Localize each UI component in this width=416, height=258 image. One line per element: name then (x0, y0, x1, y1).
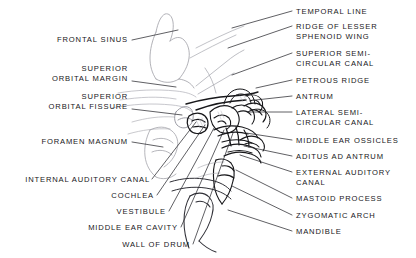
label-external-auditory-canal: EXTERNAL AUDITORYCANAL (296, 168, 391, 187)
label-superior-orbital-fissure: SUPERIORORBITAL FISSURE (49, 92, 128, 111)
label-aditus-ad-antrum: ADITUS AD ANTRUM (296, 152, 384, 162)
label-line: SUPERIOR (52, 64, 128, 74)
label-antrum: ANTRUM (296, 92, 334, 102)
label-superior-semicircular-canal: SUPERIOR SEMI-CIRCULAR CANAL (296, 49, 374, 68)
leader-line-wall-of-drum (193, 133, 233, 244)
leader-line-external-auditory-canal (240, 155, 292, 172)
label-middle-ear-ossicles: MIDDLE EAR OSSICLES (296, 136, 399, 146)
label-line: SPHENOID WING (296, 32, 378, 42)
label-line: MANDIBLE (296, 227, 342, 237)
label-line: INTERNAL AUDITORY CANAL (25, 175, 150, 185)
label-line: TEMPORAL LINE (296, 7, 368, 17)
diagram-page: FRONTAL SINUSSUPERIORORBITAL MARGINSUPER… (0, 0, 416, 258)
leader-line-superior-orbital-fissure (132, 109, 182, 115)
label-wall-of-drum: WALL OF DRUM (122, 240, 190, 250)
label-petrous-ridge: PETROUS RIDGE (296, 76, 370, 86)
label-line: LATERAL SEMI- (296, 108, 374, 118)
occipital-contours (145, 127, 178, 179)
label-foramen-magnum: FORAMEN MAGNUM (41, 137, 128, 147)
leader-line-superior-orbital-margin (132, 81, 176, 87)
leader-line-vestibule (169, 128, 214, 211)
label-line: CANAL (296, 178, 391, 188)
label-temporal-line: TEMPORAL LINE (296, 7, 368, 17)
label-mandible: MANDIBLE (296, 227, 342, 237)
label-line: FORAMEN MAGNUM (41, 137, 128, 147)
label-line: RIDGE OF LESSER (296, 22, 378, 32)
label-line: PETROUS RIDGE (296, 76, 370, 86)
label-line: ZYGOMATIC ARCH (296, 211, 376, 221)
label-line: CIRCULAR CANAL (296, 59, 374, 69)
leader-line-temporal-line (232, 11, 292, 28)
label-middle-ear-cavity: MIDDLE EAR CAVITY (88, 223, 178, 233)
label-line: FRONTAL SINUS (57, 35, 128, 45)
frontal-bone-outline (150, 14, 194, 88)
label-line: SUPERIOR (49, 92, 128, 102)
leader-line-petrous-ridge (256, 80, 292, 88)
label-ridge-of-lesser-sphenoid-wing: RIDGE OF LESSERSPHENOID WING (296, 22, 378, 41)
leader-line-ridge-of-lesser-sphenoid-wing (228, 26, 292, 48)
leader-line-superior-semicircular-canal (232, 53, 292, 75)
label-line: WALL OF DRUM (122, 240, 190, 250)
leader-line-antrum (256, 96, 292, 100)
label-frontal-sinus: FRONTAL SINUS (57, 35, 128, 45)
label-line: ANTRUM (296, 92, 334, 102)
label-cochlea: COCHLEA (111, 191, 154, 201)
label-line: ADITUS AD ANTRUM (296, 152, 384, 162)
leader-line-mastoid-process (236, 170, 292, 198)
label-lateral-semicircular-canal: LATERAL SEMI-CIRCULAR CANAL (296, 108, 374, 127)
label-line: MASTOID PROCESS (296, 194, 382, 204)
label-line: CIRCULAR CANAL (296, 118, 374, 128)
label-internal-auditory-canal: INTERNAL AUDITORY CANAL (25, 175, 150, 185)
label-mastoid-process: MASTOID PROCESS (296, 194, 382, 204)
leader-line-foramen-magnum (132, 142, 163, 147)
label-line: ORBITAL FISSURE (49, 102, 128, 112)
temporal-line-contour (190, 26, 244, 58)
leader-line-zygomatic-arch (232, 186, 292, 215)
lesser-sphenoid-wing (196, 50, 244, 94)
label-superior-orbital-margin: SUPERIORORBITAL MARGIN (52, 64, 128, 83)
zygomatic-arch-shape (170, 178, 231, 199)
label-vestibule: VESTIBULE (117, 207, 166, 217)
petrous-ridge-line (186, 92, 258, 110)
superior-orbital-fissure-shape (175, 107, 194, 128)
leader-line-cochlea (157, 125, 205, 195)
label-line: COCHLEA (111, 191, 154, 201)
label-line: SUPERIOR SEMI- (296, 49, 374, 59)
label-zygomatic-arch: ZYGOMATIC ARCH (296, 211, 376, 221)
label-line: ORBITAL MARGIN (52, 74, 128, 84)
label-line: VESTIBULE (117, 207, 166, 217)
label-line: MIDDLE EAR CAVITY (88, 223, 178, 233)
label-line: EXTERNAL AUDITORY (296, 168, 391, 178)
leader-line-mandible (228, 210, 292, 231)
label-line: MIDDLE EAR OSSICLES (296, 136, 399, 146)
